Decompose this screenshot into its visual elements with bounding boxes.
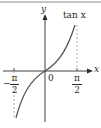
tick-neg-numerator: π: [10, 74, 19, 83]
function-label: tan x: [63, 11, 86, 20]
origin-label: 0: [48, 74, 54, 83]
tangent-graph-figure: y tan x x 0 − π 2 π 2: [0, 0, 101, 128]
tick-label-neg-pi-half: π 2: [10, 74, 19, 95]
tick-pos-denominator: 2: [72, 86, 82, 95]
x-axis-arrow-icon: [87, 69, 93, 74]
tick-pos-numerator: π: [72, 74, 82, 83]
tick-label-pi-half: π 2: [72, 74, 82, 95]
x-axis-label: x: [94, 65, 99, 74]
y-axis-label: y: [41, 5, 46, 14]
graph-canvas: [0, 0, 101, 128]
y-axis-arrow-icon: [43, 14, 48, 20]
function-label-text: tan x: [63, 10, 86, 20]
tick-neg-denominator: 2: [10, 86, 19, 95]
tan-curve: [16, 25, 75, 118]
